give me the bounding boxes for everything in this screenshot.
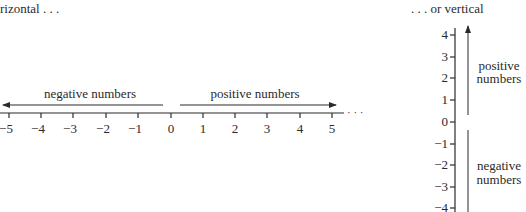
tick-label: 5 xyxy=(329,121,336,136)
negative-numbers-label: negative numbers xyxy=(44,86,136,101)
negative-label-line2: numbers xyxy=(477,172,522,187)
tick-label: 4 xyxy=(297,121,304,136)
tick-label: −2 xyxy=(96,121,110,136)
tick-label: 0 xyxy=(168,121,175,136)
tick-label: −2 xyxy=(434,157,448,172)
tick-label: 1 xyxy=(200,121,207,136)
tick-label: −4 xyxy=(31,121,45,136)
tick-label: −1 xyxy=(128,121,142,136)
positive-numbers-label: positive numbers xyxy=(210,86,299,101)
tick-label: −3 xyxy=(434,179,448,194)
horizontal-caption: rizontal . . . xyxy=(0,1,59,16)
tick-label: 1 xyxy=(442,92,449,107)
number-line-diagram: rizontal . . . . . . or vertical negativ… xyxy=(0,0,526,212)
continuation-ellipsis: · · · xyxy=(347,106,364,118)
negative-label-line1: negative xyxy=(477,158,521,173)
vertical-caption: . . . or vertical xyxy=(411,1,484,16)
tick-label: 4 xyxy=(442,27,449,42)
vertical-ticks xyxy=(450,35,455,208)
vertical-tick-labels: 4 3 2 1 0 −1 −2 −3 −4 xyxy=(434,27,448,212)
tick-label: −3 xyxy=(63,121,77,136)
tick-label: −1 xyxy=(434,136,448,151)
tick-label: 2 xyxy=(442,70,449,85)
tick-label: 3 xyxy=(442,49,449,64)
horizontal-tick-labels: −5 −4 −3 −2 −1 0 1 2 3 4 5 xyxy=(0,121,335,136)
tick-label: 2 xyxy=(232,121,239,136)
tick-label: −5 xyxy=(0,121,13,136)
tick-label: −4 xyxy=(434,200,448,212)
tick-label: 3 xyxy=(264,121,271,136)
horizontal-ticks xyxy=(9,113,332,118)
tick-label: 0 xyxy=(442,114,449,129)
positive-label-line2: numbers xyxy=(477,71,522,86)
